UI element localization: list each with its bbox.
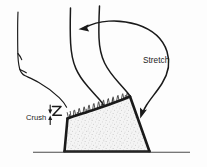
squash-stretch-diagram: Stretch Crush — [0, 0, 207, 167]
crush-label: Crush — [26, 113, 46, 122]
arrowhead-left — [79, 24, 90, 31]
background-leg-outline — [18, 12, 67, 107]
compression-z-symbol — [48, 105, 61, 125]
diagram-canvas: Stretch Crush — [0, 0, 207, 167]
stretch-label: Stretch — [143, 56, 170, 65]
